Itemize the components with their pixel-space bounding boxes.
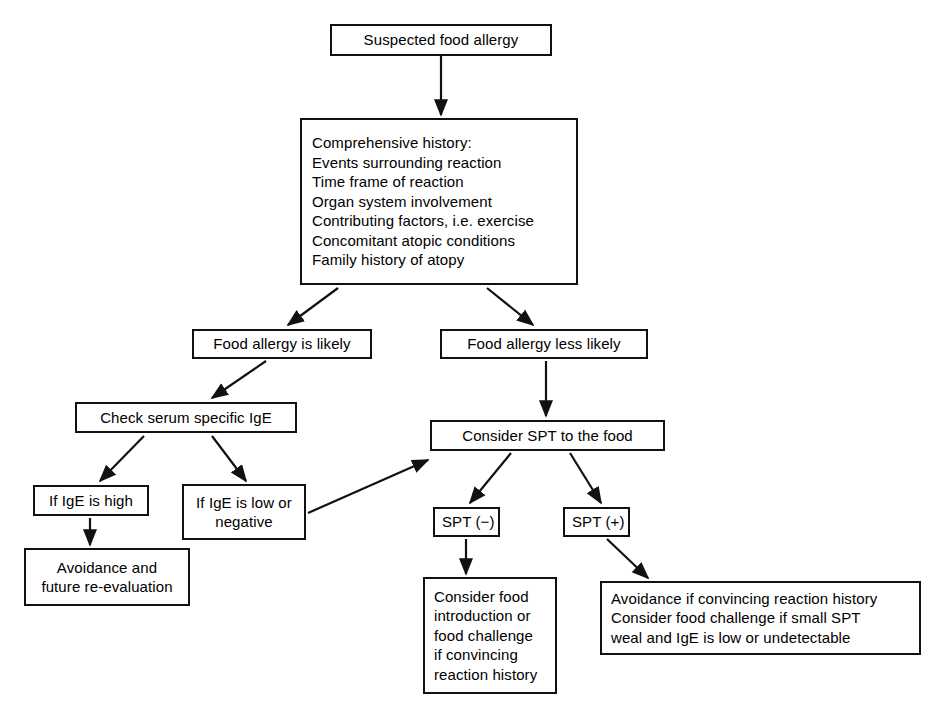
edge-consider-spt-to-spt-pos bbox=[570, 453, 601, 503]
node-if-ige-is-high[interactable]: If IgE is high bbox=[33, 485, 149, 516]
node-text-line: Consider food bbox=[434, 587, 546, 607]
node-comprehensive-history[interactable]: Comprehensive history:Events surrounding… bbox=[300, 118, 578, 285]
node-consider-spt-to-the-food[interactable]: Consider SPT to the food bbox=[430, 420, 665, 451]
edge-history-to-less-likely bbox=[487, 288, 533, 325]
edge-spt-pos-to-avoidance-convincing bbox=[607, 539, 648, 578]
node-text-line: SPT (−) bbox=[442, 512, 491, 532]
node-text-line: Suspected food allergy bbox=[339, 30, 543, 50]
node-suspected-food-allergy[interactable]: Suspected food allergy bbox=[330, 24, 552, 56]
node-text-line: Organ system involvement bbox=[312, 192, 566, 212]
node-text-line: Avoidance if convincing reaction history bbox=[611, 589, 910, 609]
edge-check-ige-to-ige-high bbox=[100, 436, 144, 481]
edge-check-ige-to-ige-low bbox=[212, 436, 246, 481]
node-food-allergy-less-likely[interactable]: Food allergy less likely bbox=[440, 329, 648, 359]
node-text-line: Events surrounding reaction bbox=[312, 153, 566, 173]
node-text-line: Food allergy less likely bbox=[449, 334, 639, 354]
node-text-line: If IgE is high bbox=[42, 491, 140, 511]
node-text-line: Family history of atopy bbox=[312, 250, 566, 270]
node-text-line: Contributing factors, i.e. exercise bbox=[312, 211, 566, 231]
node-text-line: Time frame of reaction bbox=[312, 172, 566, 192]
node-check-serum-specific-ige[interactable]: Check serum specific IgE bbox=[75, 402, 297, 433]
node-spt-positive[interactable]: SPT (+) bbox=[563, 507, 630, 537]
node-text-line: introduction or bbox=[434, 606, 546, 626]
node-if-ige-is-low-or-negative[interactable]: If IgE is low ornegative bbox=[182, 484, 306, 540]
edge-ige-low-to-consider-spt bbox=[308, 460, 428, 513]
node-text-line: if convincing bbox=[434, 645, 546, 665]
edge-consider-spt-to-spt-neg bbox=[470, 453, 511, 503]
node-text-line: negative bbox=[191, 512, 297, 532]
node-text-line: Food allergy is likely bbox=[201, 334, 363, 354]
node-consider-food-introduction[interactable]: Consider foodintroduction orfood challen… bbox=[423, 577, 557, 694]
node-text-line: food challenge bbox=[434, 626, 546, 646]
node-text-line: future re-evaluation bbox=[35, 577, 179, 597]
node-text-line: If IgE is low or bbox=[191, 493, 297, 513]
node-spt-negative[interactable]: SPT (−) bbox=[433, 507, 500, 537]
node-text-line: Check serum specific IgE bbox=[84, 408, 288, 428]
node-text-line: reaction history bbox=[434, 665, 546, 685]
edge-likely-to-check-ige bbox=[212, 361, 266, 398]
node-avoidance-if-convincing-reaction-history[interactable]: Avoidance if convincing reaction history… bbox=[600, 581, 921, 655]
node-food-allergy-is-likely[interactable]: Food allergy is likely bbox=[192, 329, 372, 359]
node-text-line: Comprehensive history: bbox=[312, 133, 566, 153]
node-avoidance-and-future-re-evaluation[interactable]: Avoidance andfuture re-evaluation bbox=[24, 548, 190, 606]
edge-history-to-likely bbox=[288, 288, 338, 325]
node-text-line: SPT (+) bbox=[572, 512, 621, 532]
node-text-line: weal and IgE is low or undetectable bbox=[611, 628, 910, 648]
node-text-line: Avoidance and bbox=[35, 558, 179, 578]
node-text-line: Consider SPT to the food bbox=[439, 426, 656, 446]
flowchart-canvas: Suspected food allergy Comprehensive his… bbox=[0, 0, 945, 712]
node-text-line: Consider food challenge if small SPT bbox=[611, 608, 910, 628]
node-text-line: Concomitant atopic conditions bbox=[312, 231, 566, 251]
